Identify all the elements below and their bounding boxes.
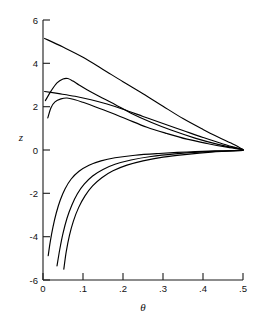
- data-curve-branch-3-upper-hump: [45, 78, 243, 149]
- chart-figure: 6 4 2 0 -2 -4 -6 0 .1 .2 .3 .4 .5 z θ: [0, 0, 265, 330]
- y-tick-label-neg6: -6: [30, 275, 38, 286]
- y-tick-label-6: 6: [33, 15, 38, 26]
- x-axis-tick-labels: 0 .1 .2 .3 .4 .5: [40, 283, 247, 294]
- x-tick-label-0point3: .3: [159, 283, 167, 294]
- y-axis-tick-labels: 6 4 2 0 -2 -4 -6: [30, 15, 38, 286]
- x-tick-label-0point5: .5: [239, 283, 247, 294]
- axes-group: [43, 20, 243, 280]
- x-tick-label-0: 0: [40, 283, 45, 294]
- y-tick-label-2: 2: [33, 101, 38, 112]
- x-tick-label-0point2: .2: [119, 283, 127, 294]
- x-tick-label-0point4: .4: [199, 283, 207, 294]
- y-tick-label-0: 0: [33, 145, 38, 156]
- data-curve-branch-1-upper-linear: [45, 38, 243, 149]
- x-tick-label-0point1: .1: [79, 283, 87, 294]
- y-axis-ticks: [43, 20, 50, 280]
- y-tick-label-neg2: -2: [30, 188, 38, 199]
- y-tick-label-neg4: -4: [30, 231, 38, 242]
- data-curve-branch-5-lower-shallow: [48, 150, 243, 255]
- data-curve-branch-2-upper-peak: [48, 98, 243, 150]
- data-curve-branch-4-upper-straight: [45, 92, 243, 150]
- x-axis-ticks: [43, 273, 243, 280]
- data-curves-group: [45, 38, 243, 269]
- x-axis-title: θ: [140, 301, 146, 313]
- line-chart-plot: 6 4 2 0 -2 -4 -6 0 .1 .2 .3 .4 .5 z θ: [0, 0, 265, 330]
- data-curve-branch-7-lower-steep: [64, 150, 243, 269]
- y-axis-title: z: [18, 131, 24, 143]
- y-tick-label-4: 4: [33, 58, 38, 69]
